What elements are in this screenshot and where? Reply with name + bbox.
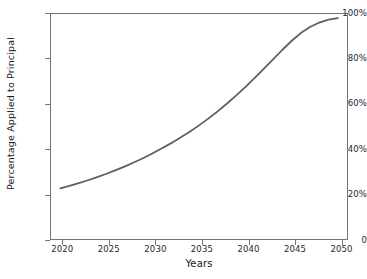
x-tick-label-2045: 2045 (273, 245, 317, 254)
series-line-percentage (60, 18, 338, 188)
x-tick-mark (109, 240, 110, 245)
x-tick-label-2050: 2050 (320, 245, 364, 254)
x-tick-mark (342, 240, 343, 245)
chart-figure: 0 20% 40% 60% 80% 100% 2020 2025 2030 20… (0, 0, 367, 279)
plot-area (50, 13, 348, 240)
y-axis-label: Percentage Applied to Principal (5, 4, 16, 224)
x-tick-label-2030: 2030 (133, 245, 177, 254)
line-series-svg (51, 14, 347, 239)
x-tick-label-2020: 2020 (40, 245, 84, 254)
x-tick-label-2040: 2040 (227, 245, 271, 254)
x-tick-mark (202, 240, 203, 245)
x-axis-label: Years (50, 258, 348, 270)
x-tick-mark (62, 240, 63, 245)
x-tick-mark (249, 240, 250, 245)
y-tick-mark (45, 240, 50, 241)
x-tick-mark (295, 240, 296, 245)
x-tick-label-2035: 2035 (180, 245, 224, 254)
x-tick-label-2025: 2025 (87, 245, 131, 254)
y-axis-label-wrapper: Percentage Applied to Principal (0, 0, 18, 240)
x-tick-mark (155, 240, 156, 245)
